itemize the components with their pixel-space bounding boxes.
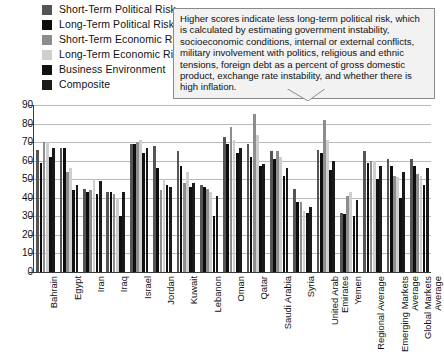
- bar-group: [151, 105, 174, 272]
- bar-group: [34, 105, 57, 272]
- bar: [309, 207, 312, 272]
- legend-item-label: Business Environment: [59, 64, 165, 75]
- x-axis-label: Lebanon: [213, 276, 223, 313]
- legend-item-label: Long-Term Economic Risk: [59, 49, 184, 60]
- legend-swatch-icon: [42, 35, 52, 45]
- bar-group: [408, 105, 431, 272]
- bar-group: [338, 105, 361, 272]
- callout-box: Higher scores indicate less long-term po…: [173, 8, 435, 99]
- x-axis-label: United Arab Emirates: [330, 276, 349, 325]
- x-axis-label: Oman: [236, 276, 246, 302]
- bar-group: [174, 105, 197, 272]
- bar: [379, 166, 382, 272]
- bar: [286, 168, 289, 272]
- bar-group: [197, 105, 220, 272]
- x-axis-label: Syria: [306, 276, 316, 297]
- x-axis-label: Bahrain: [49, 276, 59, 308]
- x-axis-labels: BahrainEgyptIranIraqIsraelJordanKuwaitLe…: [34, 276, 431, 354]
- x-axis-label: Global Markets Average: [423, 276, 442, 339]
- bar-groups: [34, 105, 431, 272]
- callout-text: Higher scores indicate less long-term po…: [180, 13, 428, 93]
- bar-group: [291, 105, 314, 272]
- x-axis-label: Jordan: [166, 276, 176, 305]
- bar: [262, 164, 265, 272]
- bar-group: [361, 105, 384, 272]
- bar: [332, 161, 335, 272]
- x-axis-label: Saudi Arabia: [283, 276, 293, 329]
- bar-group: [384, 105, 407, 272]
- x-axis-label: Emerging Markets Average: [400, 276, 419, 352]
- legend-swatch-icon: [42, 20, 52, 30]
- legend-item-label: Long-Term Political Risk: [59, 19, 174, 30]
- bar: [122, 192, 125, 272]
- bar-group: [314, 105, 337, 272]
- legend-item-label: Short-Term Economic Risk: [59, 34, 186, 45]
- chart-page: Short-Term Political RiskLong-Term Polit…: [0, 0, 444, 355]
- x-axis-label: Yemen: [353, 276, 363, 305]
- x-axis-label: Regional Average: [376, 276, 386, 350]
- legend-item-label: Short-Term Political Risk: [59, 4, 176, 15]
- bar: [146, 148, 149, 272]
- bar: [99, 181, 102, 272]
- legend-swatch-icon: [42, 65, 52, 75]
- x-axis-label: Iran: [96, 276, 106, 292]
- x-axis-label: Kuwait: [189, 276, 199, 304]
- x-axis-label: Israel: [143, 276, 153, 299]
- bar: [76, 185, 79, 272]
- x-axis-label: Iraq: [119, 276, 129, 292]
- bar-group: [221, 105, 244, 272]
- legend-swatch-icon: [42, 5, 52, 15]
- legend-swatch-icon: [42, 50, 52, 60]
- bar-group: [244, 105, 267, 272]
- legend-swatch-icon: [42, 80, 52, 90]
- bar: [192, 183, 195, 272]
- bar-group: [127, 105, 150, 272]
- x-axis-line: [33, 272, 431, 273]
- bar: [52, 148, 55, 272]
- bar: [239, 148, 242, 272]
- bar-group: [57, 105, 80, 272]
- bar: [402, 172, 405, 272]
- bar-group: [81, 105, 104, 272]
- bar: [426, 168, 429, 272]
- bar: [216, 196, 219, 272]
- legend-item-label: Composite: [59, 79, 110, 90]
- x-axis-label: Egypt: [73, 276, 83, 300]
- bar-group: [104, 105, 127, 272]
- x-axis-label: Qatar: [259, 276, 269, 299]
- bar-chart: 0102030405060708090 BahrainEgyptIranIraq…: [0, 100, 444, 355]
- bar-group: [268, 105, 291, 272]
- bar: [169, 187, 172, 272]
- bar: [356, 200, 359, 272]
- y-axis-ticks: 0102030405060708090: [0, 100, 33, 280]
